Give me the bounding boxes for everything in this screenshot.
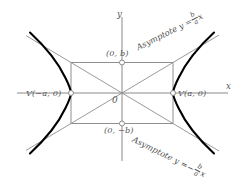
- co-vertex-top-marker: [120, 60, 125, 65]
- vertex-left-marker: [69, 91, 74, 96]
- vertex-right-marker: [171, 91, 176, 96]
- vertex-right-label: V(a, 0): [178, 89, 206, 97]
- vertex-left-label: V(−a, 0): [26, 89, 61, 97]
- co-vertex-bottom-label: (0, −b): [104, 126, 134, 134]
- co-vertex-top-label: (0, b): [106, 49, 129, 57]
- x-axis-label: x: [226, 82, 231, 91]
- hyperbola-figure: y x 0 V(−a, 0) V(a, 0) (0, b) (0, −b) As…: [0, 0, 239, 190]
- origin-label: 0: [112, 96, 118, 105]
- y-axis-label: y: [117, 10, 122, 19]
